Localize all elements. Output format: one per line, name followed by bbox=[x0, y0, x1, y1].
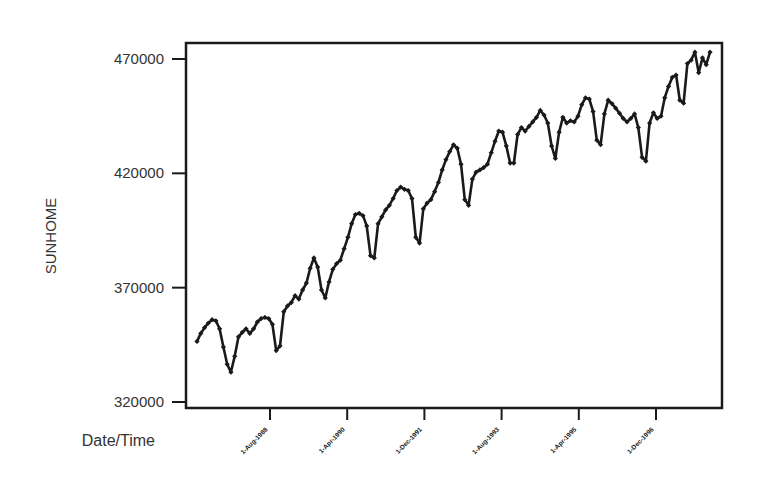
plot-frame bbox=[186, 43, 722, 408]
data-point-marker bbox=[232, 354, 237, 359]
data-point-marker bbox=[511, 160, 516, 165]
x-tick-label: 1-Dec-1996 bbox=[625, 425, 654, 454]
y-axis-title: SUNHOME bbox=[42, 198, 59, 275]
y-tick-label: 470000 bbox=[114, 50, 164, 67]
x-tick-label: 1-Apr-1990 bbox=[317, 425, 347, 455]
data-point-marker bbox=[458, 162, 463, 167]
x-tick-label: 1-Apr-1995 bbox=[549, 425, 579, 455]
y-axis: 320000370000420000470000 bbox=[114, 50, 186, 410]
x-axis-title: Date/Time bbox=[82, 432, 155, 449]
y-tick-label: 420000 bbox=[114, 164, 164, 181]
x-tick-label: 1-Dec-1991 bbox=[394, 425, 423, 454]
data-series bbox=[194, 50, 712, 375]
y-tick-label: 320000 bbox=[114, 393, 164, 410]
data-point-marker bbox=[221, 345, 226, 350]
y-tick-label: 370000 bbox=[114, 279, 164, 296]
x-axis: 1-Aug-19881-Apr-19901-Dec-19911-Aug-1993… bbox=[239, 408, 656, 456]
line-chart: 320000370000420000470000 1-Aug-19881-Apr… bbox=[0, 0, 759, 483]
data-point-marker bbox=[557, 130, 562, 135]
x-tick-label: 1-Aug-1988 bbox=[239, 425, 270, 456]
x-tick-label: 1-Aug-1993 bbox=[471, 425, 502, 456]
